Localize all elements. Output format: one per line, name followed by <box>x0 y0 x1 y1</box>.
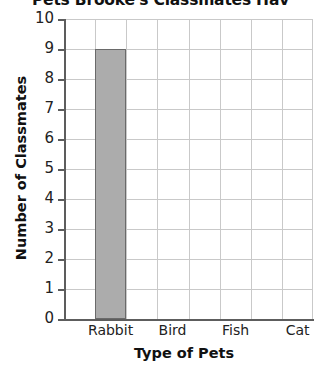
y-axis-tick-label: 5 <box>14 161 54 176</box>
bar-chart: Pets Brooke's Classmates Hav Number of C… <box>0 0 321 368</box>
gridline-vertical <box>251 19 252 319</box>
y-axis-tick-label: 9 <box>14 41 54 56</box>
bar <box>95 49 126 319</box>
y-axis-tick <box>58 139 65 141</box>
gridline-vertical <box>189 19 190 319</box>
y-axis-tick <box>58 259 65 261</box>
y-axis-tick <box>58 199 65 201</box>
y-axis-tick <box>58 49 65 51</box>
y-axis-tick-label: 6 <box>14 131 54 146</box>
plot-area <box>64 19 313 319</box>
y-axis-tick-label: 8 <box>14 71 54 86</box>
x-axis-category-label: Bird <box>139 322 206 338</box>
y-axis-tick-label: 4 <box>14 191 54 206</box>
y-axis-tick-label: 0 <box>14 311 54 326</box>
y-axis-tick-label: 7 <box>14 101 54 116</box>
gridline-vertical <box>312 19 313 319</box>
x-axis-category-label: Rabbit <box>77 322 144 338</box>
gridline-vertical <box>157 19 158 319</box>
y-axis-tick-label: 3 <box>14 221 54 236</box>
y-axis-tick <box>58 289 65 291</box>
y-axis-tick-label: 10 <box>14 11 54 26</box>
x-axis-line <box>64 319 314 321</box>
x-axis-title: Type of Pets <box>55 345 313 361</box>
y-axis-tick <box>58 109 65 111</box>
chart-title: Pets Brooke's Classmates Hav <box>0 0 321 9</box>
x-axis-category-label: Fish <box>202 322 269 338</box>
x-axis-category-label: Cat <box>264 322 321 338</box>
y-axis-tick <box>58 19 65 21</box>
y-axis-tick <box>58 229 65 231</box>
gridline-vertical <box>282 19 283 319</box>
gridline-vertical <box>220 19 221 319</box>
y-axis-tick <box>58 169 65 171</box>
gridline-vertical <box>126 19 127 319</box>
y-axis-tick <box>58 79 65 81</box>
y-axis-tick-label: 1 <box>14 281 54 296</box>
y-axis-tick-label: 2 <box>14 251 54 266</box>
y-axis-tick <box>58 319 65 321</box>
